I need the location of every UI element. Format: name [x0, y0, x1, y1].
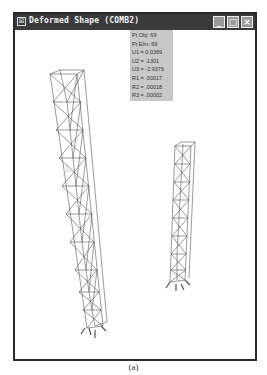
info-pt-elm: Pt Elm: 69 — [132, 40, 171, 49]
model-canvas[interactable]: Pt Obj: 69 Pt Elm: 69 U1 = 0.0369 U2 = .… — [15, 30, 255, 359]
deformed-shape-window: ⊠ Deformed Shape (COMB2) _ □ × — [13, 12, 257, 361]
app-icon: ⊠ — [17, 17, 26, 26]
figure-caption: (a) — [0, 362, 267, 372]
title-bar[interactable]: ⊠ Deformed Shape (COMB2) _ □ × — [15, 14, 255, 30]
right-tower — [166, 142, 195, 291]
info-u1: U1 = 0.0369 — [132, 48, 171, 57]
point-info-panel: Pt Obj: 69 Pt Elm: 69 U1 = 0.0369 U2 = .… — [130, 30, 173, 101]
info-pt-obj: Pt Obj: 69 — [132, 31, 171, 40]
maximize-button[interactable]: □ — [227, 16, 239, 28]
close-button[interactable]: × — [241, 16, 253, 28]
window-title: Deformed Shape (COMB2) — [29, 16, 139, 25]
info-u3: U3 = -2.9376 — [132, 65, 171, 74]
info-r1: R1 = .00017 — [132, 74, 171, 83]
minimize-button[interactable]: _ — [213, 16, 225, 28]
axis-triad-icon — [63, 163, 73, 175]
info-r2: R2 = .00018 — [132, 83, 171, 92]
info-r3: R3 = .00002 — [132, 91, 171, 100]
info-u2: U2 = .1301 — [132, 57, 171, 66]
left-tower — [50, 70, 107, 338]
